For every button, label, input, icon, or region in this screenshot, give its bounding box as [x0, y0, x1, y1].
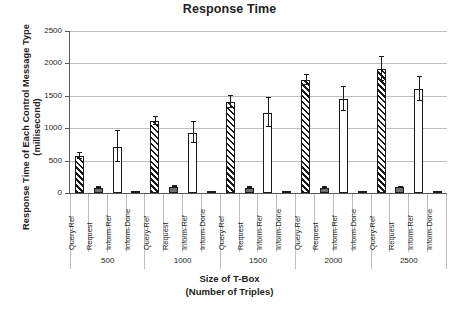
- error-bar-cap-lower: [398, 187, 403, 188]
- error-bar-cap-upper: [191, 121, 196, 122]
- error-bar-cap-lower: [228, 107, 233, 108]
- plot-area: [70, 31, 447, 193]
- x-axis-title: Size of T-Box (Number of Triples): [0, 272, 459, 298]
- y-axis-tick-label: 2000: [30, 59, 62, 67]
- gridline: [70, 161, 447, 162]
- x-tick-label: Inform-Done: [349, 209, 358, 250]
- error-bar-cap-lower: [285, 191, 290, 192]
- x-tick-label: Inform-Ref: [406, 215, 415, 250]
- bar-query-ref-2500: [377, 69, 386, 193]
- x-tick-label: Query-Ref: [217, 216, 226, 250]
- x-tick-label: Inform-Done: [123, 209, 132, 250]
- chart-title: Response Time: [0, 2, 459, 16]
- gridline: [70, 128, 447, 129]
- error-bar-line: [268, 98, 269, 127]
- bar-query-ref-2000: [301, 80, 310, 193]
- x-tick-label: Inform-Ref: [180, 215, 189, 250]
- error-bar-line: [419, 77, 420, 102]
- error-bar-cap-lower: [304, 84, 309, 85]
- bar-inform-ref-2000: [339, 99, 348, 193]
- x-tick-label: Query-Ref: [142, 216, 151, 250]
- error-bar-cap-lower: [436, 191, 441, 192]
- error-bar-cap-lower: [360, 191, 365, 192]
- error-bar-cap-lower: [96, 187, 101, 188]
- x-tick-label: Query-Ref: [293, 216, 302, 250]
- x-tick-label: Request: [85, 222, 94, 250]
- bar-request-500: [94, 188, 103, 193]
- bar-inform-ref-2500: [414, 89, 423, 193]
- error-bar-line: [193, 122, 194, 143]
- error-bar-cap-upper: [379, 56, 384, 57]
- error-bar-line: [343, 87, 344, 112]
- x-tick-label: Request: [387, 222, 396, 250]
- error-bar-cap-upper: [115, 130, 120, 131]
- x-tick-label: Inform-Ref: [104, 215, 113, 250]
- bar-request-2000: [320, 188, 329, 193]
- error-bar-cap-lower: [341, 110, 346, 111]
- x-tick-label: Inform-Done: [425, 209, 434, 250]
- error-bar-cap-upper: [77, 152, 82, 153]
- error-bar-cap-lower: [134, 191, 139, 192]
- error-bar-cap-upper: [341, 86, 346, 87]
- y-axis-tick-label: 1000: [30, 124, 62, 132]
- error-bar-cap-upper: [304, 74, 309, 75]
- error-bar-line: [381, 57, 382, 81]
- gridline: [70, 31, 447, 32]
- bar-request-1000: [169, 187, 178, 193]
- error-bar-cap-lower: [266, 126, 271, 127]
- error-bar-cap-upper: [228, 95, 233, 96]
- bar-request-1500: [245, 188, 254, 194]
- x-tick-label: Inform-Done: [198, 209, 207, 250]
- error-bar-cap-lower: [172, 186, 177, 187]
- error-bar-cap-upper: [153, 116, 158, 117]
- error-bar-cap-lower: [191, 142, 196, 143]
- y-axis-tick-label: 2500: [30, 27, 62, 35]
- error-bar-cap-lower: [247, 187, 252, 188]
- x-tick-label: Request: [311, 222, 320, 250]
- chart-container: Response Time Response Time of Each Cont…: [0, 0, 459, 315]
- error-bar-cap-lower: [115, 161, 120, 162]
- error-bar-cap-lower: [153, 124, 158, 125]
- x-axis-title-line1: Size of T-Box: [0, 272, 459, 285]
- x-group-label-1000: 1000: [145, 252, 220, 269]
- bar-request-2500: [395, 187, 404, 193]
- gridline: [70, 63, 447, 64]
- x-tick-label: Inform-Ref: [330, 215, 339, 250]
- x-axis-title-line2: (Number of Triples): [0, 285, 459, 298]
- y-axis-tick-label: 500: [30, 157, 62, 165]
- x-tick-label: Query-Ref: [368, 216, 377, 250]
- x-group-label-2000: 2000: [296, 252, 371, 269]
- error-bar-cap-lower: [379, 80, 384, 81]
- x-tick-label: Query-Ref: [67, 216, 76, 250]
- x-tick-label: Request: [236, 222, 245, 250]
- x-tick-label: Inform-Done: [274, 209, 283, 250]
- x-tick-label: Request: [161, 222, 170, 250]
- gridline: [70, 96, 447, 97]
- bar-query-ref-1500: [226, 102, 235, 193]
- error-bar-cap-lower: [77, 158, 82, 159]
- x-group-label-1500: 1500: [221, 252, 296, 269]
- error-bar-cap-upper: [417, 76, 422, 77]
- x-tick-inform-done: Inform-Done: [428, 194, 447, 252]
- bar-query-ref-500: [75, 156, 84, 193]
- y-axis-tick-label: 1500: [30, 92, 62, 100]
- error-bar-cap-lower: [209, 191, 214, 192]
- y-axis-tick-label: 0: [30, 189, 62, 197]
- error-bar-cap-lower: [417, 100, 422, 101]
- x-group-label-2500: 2500: [372, 252, 447, 269]
- bar-query-ref-1000: [150, 121, 159, 193]
- error-bar-cap-lower: [322, 187, 327, 188]
- x-tick-label: Inform-Ref: [255, 215, 264, 250]
- x-group-label-500: 500: [70, 252, 145, 269]
- error-bar-cap-upper: [266, 97, 271, 98]
- error-bar-line: [117, 131, 118, 161]
